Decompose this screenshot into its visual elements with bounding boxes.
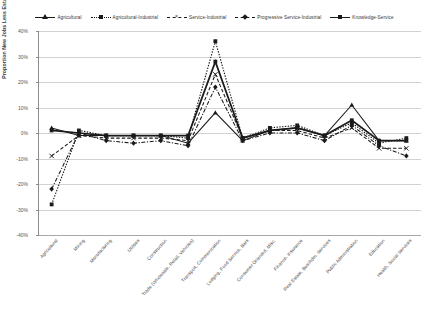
- data-point-marker: [50, 129, 54, 133]
- x-tick-label: Mining: [72, 238, 85, 252]
- legend-label-knowledge-service: Knowledge-Service: [352, 15, 393, 20]
- data-point-marker: [350, 118, 354, 122]
- data-point-marker: [104, 134, 108, 138]
- x-tick-label: Utilities: [126, 238, 140, 253]
- data-point-marker: [404, 153, 409, 158]
- data-point-marker: [295, 126, 299, 130]
- data-point-marker: [159, 134, 163, 138]
- y-tick-label: -20%: [0, 181, 28, 187]
- y-tick-label: 40%: [0, 28, 28, 34]
- series-service-industrial: [49, 72, 408, 158]
- data-point-marker: [213, 85, 218, 90]
- data-point-marker: [268, 129, 272, 133]
- legend-key-service-industrial-icon: [167, 13, 187, 22]
- data-point-marker: [323, 134, 327, 138]
- x-tick-label: Public Administration: [325, 238, 359, 274]
- x-axis-labels: AgriculturalMiningManufacturingUtilities…: [38, 236, 420, 324]
- legend-item-agricultural-industrial[interactable]: Agricultural-Industrial: [91, 13, 158, 22]
- legend-item-progressive-service-industrial[interactable]: Progressive Service-Industrial: [235, 13, 321, 22]
- data-point-marker: [377, 139, 381, 143]
- data-point-marker: [213, 72, 217, 76]
- series-line: [52, 74, 407, 156]
- legend-key-agricultural-icon: [35, 13, 55, 22]
- y-tick-label: -30%: [0, 206, 28, 212]
- y-tick-label: 10%: [0, 104, 28, 110]
- x-tick-label: Trade (Wholesale, Retail, Vehicles): [141, 238, 195, 297]
- legend-item-agricultural[interactable]: Agricultural: [35, 13, 81, 22]
- x-tick-label: Agricultural: [39, 238, 59, 259]
- y-tick-label: -10%: [0, 155, 28, 161]
- x-tick-label: Real Estate, Bus/Adm. Services: [282, 238, 331, 292]
- x-tick-label: Finance, Insurance: [273, 238, 304, 272]
- legend-label-service-industrial: Service-Industrial: [189, 15, 226, 20]
- data-point-marker: [322, 138, 327, 143]
- data-point-marker: [49, 187, 54, 192]
- data-point-marker: [213, 39, 217, 43]
- data-point-marker: [213, 60, 217, 64]
- legend-label-agricultural: Agricultural: [57, 15, 81, 20]
- y-axis-title: Proportion New Jobs Less Established Job…: [1, 0, 7, 50]
- data-point-marker: [404, 139, 408, 143]
- legend-key-knowledge-service-icon: [330, 13, 350, 22]
- legend-key-progressive-service-industrial-icon: [235, 13, 255, 22]
- data-point-marker: [241, 136, 245, 140]
- x-tick-label: Education: [368, 238, 386, 257]
- y-tick-label: 0%: [0, 130, 28, 136]
- chart-legend: Agricultural Agricultural-Industrial Ser…: [0, 10, 429, 24]
- series-knowledge-service: [50, 60, 409, 143]
- y-tick-label: -40%: [0, 232, 28, 238]
- y-tick-label: 30%: [0, 53, 28, 59]
- data-point-marker: [132, 134, 136, 138]
- x-tick-label: Manufacturing: [89, 238, 113, 264]
- data-point-marker: [77, 131, 81, 135]
- data-point-marker: [158, 138, 163, 143]
- series-line: [52, 87, 407, 189]
- data-point-marker: [104, 138, 109, 143]
- data-point-marker: [186, 134, 190, 138]
- data-point-marker: [49, 154, 53, 158]
- data-point-marker: [213, 110, 218, 114]
- series-agricultural: [49, 103, 409, 146]
- chart-container: Agricultural Agricultural-Industrial Ser…: [0, 0, 429, 324]
- series-layer: [38, 31, 420, 235]
- legend-label-agricultural-industrial: Agricultural-Industrial: [113, 15, 158, 20]
- data-point-marker: [131, 141, 136, 146]
- legend-key-agricultural-industrial-icon: [91, 13, 111, 22]
- y-tick-label: 20%: [0, 79, 28, 85]
- data-point-marker: [50, 203, 54, 207]
- legend-item-knowledge-service[interactable]: Knowledge-Service: [330, 13, 393, 22]
- x-tick-label: Construction: [146, 238, 168, 261]
- legend-label-progressive-service-industrial: Progressive Service-Industrial: [257, 15, 321, 20]
- legend-item-service-industrial[interactable]: Service-Industrial: [167, 13, 226, 22]
- data-point-marker: [349, 103, 354, 107]
